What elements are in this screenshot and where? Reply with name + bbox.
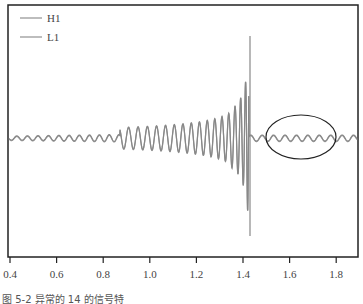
x-axis: 0.40.60.81.01.21.41.61.8 (3, 257, 343, 280)
x-tick-label: 1.8 (329, 268, 343, 280)
legend: H1 L1 (20, 12, 60, 43)
x-tick-label: 1.0 (143, 268, 157, 280)
legend-l1-label: L1 (47, 31, 59, 43)
waveform-line (9, 82, 357, 211)
chart: H1 L1 0.40.60.81.01.21.41.61.8 (0, 0, 363, 304)
chart-container: H1 L1 0.40.60.81.01.21.41.61.8 图 5-2 异常的… (0, 0, 363, 304)
x-tick-label: 0.6 (50, 268, 64, 280)
plot-frame (8, 5, 358, 257)
waveform-series (9, 36, 357, 236)
legend-h1-label: H1 (47, 12, 60, 24)
x-tick-label: 1.4 (236, 268, 250, 280)
figure-caption: 图 5-2 异常的 14 的信号特 (2, 291, 124, 304)
x-tick-label: 0.8 (96, 268, 110, 280)
x-tick-label: 1.2 (190, 268, 204, 280)
x-tick-label: 1.6 (283, 268, 297, 280)
waveform-line (9, 82, 357, 211)
x-tick-label: 0.4 (3, 268, 17, 280)
